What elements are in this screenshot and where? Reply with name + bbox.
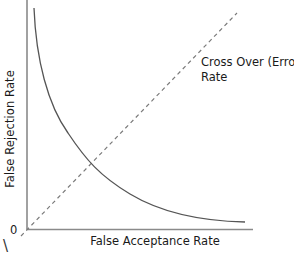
y-axis-label: False Rejection Rate <box>2 64 18 194</box>
rejection-curve <box>34 8 245 222</box>
crossover-annotation: Cross Over (Error) Rate <box>201 55 294 85</box>
origin-label: 0 <box>10 223 17 237</box>
stray-backslash-mark: \ <box>3 238 8 254</box>
dashed-diagonal-line <box>21 13 237 236</box>
chart: False Rejection Rate False Acceptance Ra… <box>0 0 294 257</box>
annotation-line-1: Cross Over (Error) <box>201 55 294 70</box>
plot-area <box>0 0 294 257</box>
annotation-line-2: Rate <box>201 70 294 85</box>
x-axis-label: False Acceptance Rate <box>80 233 230 249</box>
